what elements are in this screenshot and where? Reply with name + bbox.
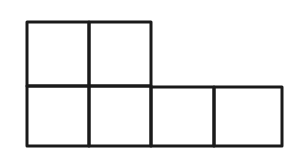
cell-bottom-4 (214, 87, 282, 146)
cell-bottom-2 (89, 86, 151, 146)
cell-top-1 (27, 22, 89, 86)
cell-bottom-1 (27, 86, 89, 146)
grid-diagram (0, 0, 296, 162)
cell-bottom-3 (151, 87, 214, 146)
cell-top-2 (89, 22, 151, 86)
